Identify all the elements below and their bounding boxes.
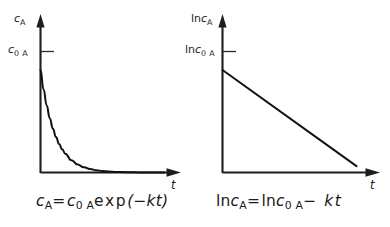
eq-lhs-sub: A bbox=[45, 199, 53, 212]
y-tick-label-sub: 0 A bbox=[14, 49, 28, 58]
y-axis-label: cA bbox=[14, 13, 26, 24]
x-axis-label: t bbox=[171, 180, 176, 192]
eq-rhs-var-main: c bbox=[276, 192, 285, 210]
x-axis-arrow-icon bbox=[167, 168, 182, 176]
eq-lhs-sub: A bbox=[239, 199, 247, 212]
y-axis-label: lncA bbox=[191, 13, 213, 24]
y-axis-arrow-icon bbox=[36, 14, 44, 28]
y-axis-arrow-icon bbox=[218, 14, 226, 28]
equation-semilog: lncA=lnc0 A− kt bbox=[216, 192, 343, 210]
eq-rhs-prefix: ln bbox=[261, 192, 276, 210]
eq-equals: = bbox=[247, 192, 262, 210]
y-tick-label-c0a: c0 A bbox=[8, 44, 28, 55]
equation-exponential: cA=c0 Aexp(−kt) bbox=[36, 192, 168, 210]
eq-rhs-func: exp bbox=[94, 192, 127, 210]
chart-panel-semilog-linear: lncA lnc0 A t lncA=lnc0 A− kt bbox=[195, 0, 390, 227]
exponential-decay-curve bbox=[41, 70, 165, 173]
x-axis-arrow-icon bbox=[366, 168, 381, 176]
y-axis-label-sub: A bbox=[20, 18, 26, 27]
y-tick-label-lnc0a: lnc0 A bbox=[185, 44, 215, 55]
eq-equals: = bbox=[52, 192, 67, 210]
eq-lhs-prefix: ln bbox=[216, 192, 231, 210]
y-tick-label-prefix: ln bbox=[185, 43, 195, 56]
y-tick-label-sub: 0 A bbox=[201, 49, 215, 58]
y-axis-label-sub: A bbox=[207, 18, 213, 27]
eq-lhs-main: c bbox=[36, 192, 45, 210]
eq-rhs-tail: − kt bbox=[303, 192, 342, 210]
kinetics-figure: cA c0 A t cA=c0 Aexp(−kt) lncA bbox=[0, 0, 390, 227]
eq-rhs-var-main: c bbox=[67, 192, 76, 210]
eq-rhs-var-sub: 0 A bbox=[285, 199, 303, 212]
eq-rhs-var-sub: 0 A bbox=[76, 199, 94, 212]
y-axis-label-prefix: ln bbox=[191, 12, 201, 25]
chart-panel-exponential-decay: cA c0 A t cA=c0 Aexp(−kt) bbox=[0, 0, 195, 227]
eq-rhs-arg: (−kt) bbox=[127, 192, 168, 210]
eq-lhs-main: c bbox=[231, 192, 240, 210]
linear-decay-line bbox=[223, 70, 357, 166]
x-axis-label: t bbox=[370, 180, 375, 192]
